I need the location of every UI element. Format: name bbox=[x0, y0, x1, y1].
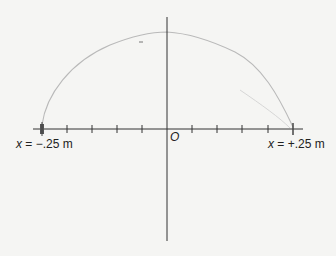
faint-guide-line bbox=[240, 90, 290, 128]
left-endpoint-marker bbox=[40, 122, 44, 136]
origin-label: O bbox=[170, 130, 179, 144]
diagram-svg bbox=[0, 0, 336, 256]
right-endpoint-label: x = +.25 m bbox=[268, 137, 325, 151]
diagram-canvas: x = −.25 m O x = +.25 m bbox=[0, 0, 336, 256]
left-endpoint-value: = −.25 m bbox=[22, 137, 73, 151]
right-endpoint-value: = +.25 m bbox=[274, 137, 325, 151]
left-endpoint-label: x = −.25 m bbox=[16, 137, 73, 151]
